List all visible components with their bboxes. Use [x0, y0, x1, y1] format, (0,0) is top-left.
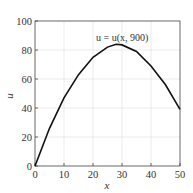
- x-tick-label: 40: [146, 169, 157, 180]
- x-axis-label: x: [104, 179, 110, 191]
- x-tick-label: 20: [88, 169, 99, 180]
- x-tick-label: 10: [59, 169, 70, 180]
- y-tick-label: 100: [16, 16, 32, 27]
- x-tick-label: 0: [32, 169, 37, 180]
- y-axis-label: u: [3, 93, 15, 99]
- y-tick-label: 80: [22, 45, 33, 56]
- x-tick-label: 30: [117, 169, 128, 180]
- y-tick-label: 20: [22, 132, 33, 143]
- x-tick-label: 50: [175, 169, 186, 180]
- line-chart: 01020304050020406080100 u = u(x, 900) x …: [0, 0, 193, 193]
- y-tick-label: 40: [22, 103, 33, 114]
- curve-annotation: u = u(x, 900): [96, 32, 148, 44]
- y-tick-label: 60: [22, 74, 33, 85]
- y-tick-label: 0: [27, 161, 32, 172]
- data-line: [35, 44, 180, 166]
